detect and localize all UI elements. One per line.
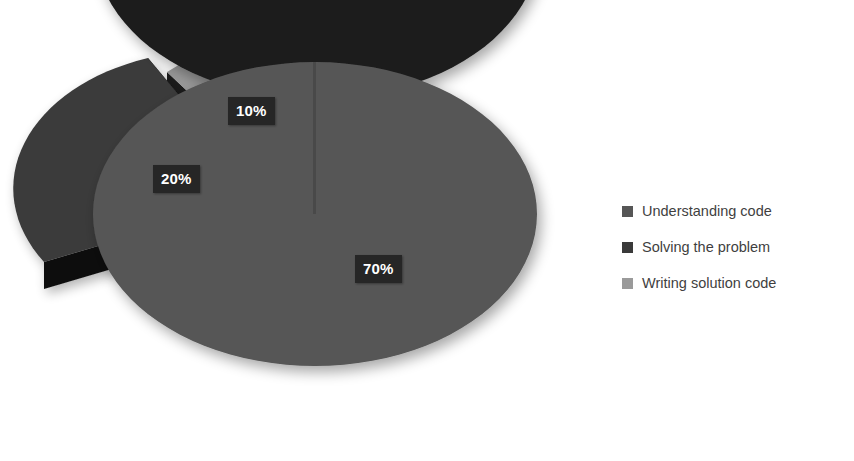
data-label-70: 70%	[355, 255, 402, 283]
legend-label-understanding-code: Understanding code	[642, 204, 772, 219]
legend-swatch-icon	[622, 206, 633, 217]
legend-swatch-icon	[622, 242, 633, 253]
chart-legend: Understanding code Solving the problem W…	[622, 193, 842, 301]
pie-slice-70-cut-face	[313, 62, 316, 214]
legend-item-writing-solution-code[interactable]: Writing solution code	[622, 265, 842, 301]
legend-label-solving-the-problem: Solving the problem	[642, 240, 770, 255]
data-label-20: 20%	[153, 165, 200, 193]
legend-swatch-icon	[622, 278, 633, 289]
pie-chart: 70% 20% 10% Understanding code Solving t…	[0, 0, 854, 461]
legend-item-solving-the-problem[interactable]: Solving the problem	[622, 229, 842, 265]
legend-item-understanding-code[interactable]: Understanding code	[622, 193, 842, 229]
data-label-10: 10%	[228, 97, 275, 125]
pie-plot-area: 70% 20% 10%	[0, 0, 600, 461]
legend-label-writing-solution-code: Writing solution code	[642, 276, 776, 291]
pie-svg	[0, 0, 600, 461]
